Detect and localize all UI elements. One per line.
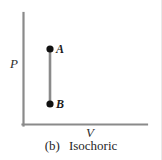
pv-chart-svg [0,0,162,132]
state-point-a-label: A [56,43,64,55]
isochoric-pv-diagram-figure: P V A B (b)Isochoric [0,0,162,160]
figure-caption: (b)Isochoric [0,139,162,153]
state-point-b-marker [46,100,53,107]
figure-caption-title: Isochoric [69,138,117,153]
plot-area: P V A B [0,0,162,132]
y-axis-label: P [10,57,18,70]
figure-caption-index: (b) [45,138,60,153]
state-point-a-marker [46,45,53,52]
state-point-b-label: B [56,98,64,110]
